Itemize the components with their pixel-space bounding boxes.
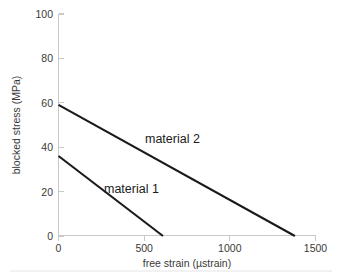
series-annotation-material-2: material 2 <box>145 132 200 146</box>
x-tick-label-500: 500 <box>135 242 153 254</box>
y-tick-label-20: 20 <box>41 186 53 198</box>
x-tick-label-1500: 1500 <box>304 242 328 254</box>
y-tick-label-40: 40 <box>41 141 53 153</box>
y-tick-label-60: 60 <box>41 97 53 109</box>
x-tick-label-0: 0 <box>56 242 62 254</box>
page-artifact-band <box>10 270 332 272</box>
y-tick-label-100: 100 <box>35 8 53 20</box>
x-axis-title: free strain (µstrain) <box>143 257 231 269</box>
x-tick-label-1000: 1000 <box>218 242 242 254</box>
series-annotation-material-1: material 1 <box>104 182 159 196</box>
y-tick-label-0: 0 <box>47 230 53 242</box>
y-axis-title: blocked stress (MPa) <box>10 76 22 175</box>
blocked-stress-vs-free-strain-chart: 100 80 60 40 20 0 0 500 1000 1500 free s… <box>0 0 342 274</box>
y-tick-label-80: 80 <box>41 52 53 64</box>
chart-screenshot: 100 80 60 40 20 0 0 500 1000 1500 free s… <box>0 0 342 274</box>
